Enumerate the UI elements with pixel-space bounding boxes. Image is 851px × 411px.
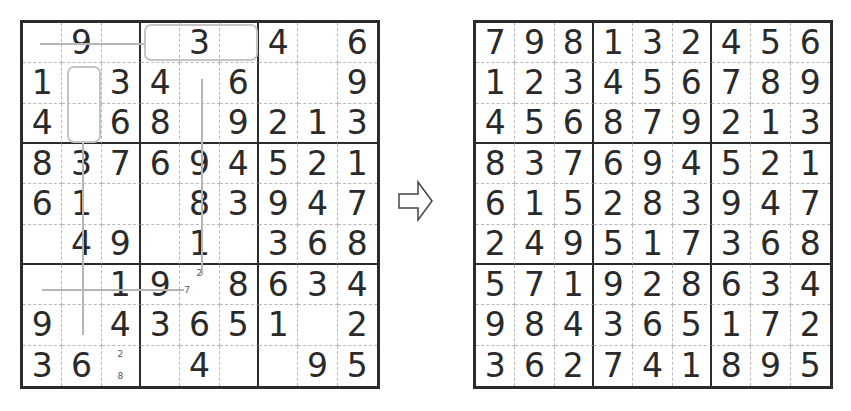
sudoku-cell[interactable]: 2 bbox=[751, 144, 790, 184]
sudoku-cell[interactable]: 9 bbox=[23, 305, 62, 345]
sudoku-cell[interactable]: 8 bbox=[791, 225, 830, 265]
sudoku-cell[interactable] bbox=[23, 265, 62, 305]
sudoku-cell[interactable] bbox=[298, 63, 337, 103]
sudoku-cell[interactable]: 1 bbox=[791, 144, 830, 184]
sudoku-cell[interactable]: 2 bbox=[673, 23, 712, 63]
sudoku-cell[interactable]: 7 bbox=[751, 305, 790, 345]
sudoku-cell[interactable]: 6 bbox=[751, 225, 790, 265]
sudoku-cell[interactable]: 8 bbox=[673, 265, 712, 305]
sudoku-cell[interactable]: 4 bbox=[180, 346, 219, 386]
sudoku-cell[interactable] bbox=[180, 63, 219, 103]
sudoku-cell[interactable]: 2 bbox=[259, 104, 298, 144]
sudoku-cell[interactable] bbox=[102, 184, 141, 224]
sudoku-cell[interactable]: 3 bbox=[712, 225, 751, 265]
sudoku-cell[interactable]: 1 bbox=[259, 305, 298, 345]
sudoku-cell[interactable]: 8 bbox=[633, 184, 672, 224]
sudoku-cell[interactable]: 4 bbox=[712, 23, 751, 63]
sudoku-cell[interactable]: 4 bbox=[338, 265, 377, 305]
sudoku-cell[interactable]: 4 bbox=[220, 144, 259, 184]
sudoku-cell[interactable] bbox=[220, 23, 259, 63]
sudoku-cell[interactable]: 7 bbox=[515, 265, 554, 305]
sudoku-cell[interactable]: 8 bbox=[555, 23, 594, 63]
sudoku-cell[interactable] bbox=[298, 305, 337, 345]
sudoku-cell[interactable]: 6 bbox=[102, 104, 141, 144]
sudoku-cell[interactable]: 5 bbox=[555, 184, 594, 224]
sudoku-cell[interactable]: 4 bbox=[298, 184, 337, 224]
sudoku-cell[interactable] bbox=[23, 225, 62, 265]
sudoku-cell[interactable] bbox=[259, 63, 298, 103]
sudoku-cell[interactable]: 1 bbox=[633, 225, 672, 265]
sudoku-cell[interactable]: 9 bbox=[338, 63, 377, 103]
sudoku-cell[interactable]: 4 bbox=[476, 104, 515, 144]
sudoku-cell[interactable]: 9 bbox=[673, 104, 712, 144]
sudoku-cell[interactable]: 6 bbox=[673, 63, 712, 103]
sudoku-cell[interactable]: 7 bbox=[102, 144, 141, 184]
sudoku-cell[interactable] bbox=[141, 184, 180, 224]
sudoku-cell[interactable]: 7 bbox=[476, 23, 515, 63]
sudoku-cell[interactable]: 5 bbox=[476, 265, 515, 305]
sudoku-cell[interactable]: 2 bbox=[515, 63, 554, 103]
sudoku-cell[interactable]: 4 bbox=[259, 23, 298, 63]
sudoku-cell[interactable]: 9 bbox=[180, 144, 219, 184]
sudoku-cell[interactable]: 3 bbox=[673, 184, 712, 224]
sudoku-cell[interactable]: 5 bbox=[633, 63, 672, 103]
sudoku-cell[interactable]: 1 bbox=[515, 184, 554, 224]
sudoku-cell[interactable]: 9 bbox=[141, 265, 180, 305]
sudoku-cell[interactable]: 9 bbox=[791, 63, 830, 103]
sudoku-cell[interactable]: 3 bbox=[180, 23, 219, 63]
sudoku-cell[interactable]: 5 bbox=[673, 305, 712, 345]
sudoku-cell[interactable]: 3 bbox=[298, 265, 337, 305]
sudoku-cell[interactable]: 6 bbox=[220, 63, 259, 103]
sudoku-cell[interactable]: 6 bbox=[791, 23, 830, 63]
sudoku-cell[interactable] bbox=[259, 346, 298, 386]
sudoku-cell[interactable]: 9 bbox=[220, 104, 259, 144]
sudoku-cell[interactable]: 4 bbox=[555, 305, 594, 345]
sudoku-cell[interactable]: 3 bbox=[594, 305, 633, 345]
sudoku-cell[interactable]: 4 bbox=[673, 144, 712, 184]
sudoku-cell[interactable] bbox=[62, 63, 101, 103]
sudoku-cell[interactable] bbox=[141, 23, 180, 63]
sudoku-cell[interactable]: 28 bbox=[102, 346, 141, 386]
sudoku-cell[interactable]: 2 bbox=[338, 305, 377, 345]
sudoku-cell[interactable]: 3 bbox=[633, 23, 672, 63]
sudoku-cell[interactable]: 9 bbox=[259, 184, 298, 224]
sudoku-cell[interactable]: 2 bbox=[298, 144, 337, 184]
sudoku-cell[interactable]: 4 bbox=[23, 104, 62, 144]
sudoku-cell[interactable]: 6 bbox=[259, 265, 298, 305]
sudoku-cell[interactable]: 4 bbox=[594, 63, 633, 103]
sudoku-cell[interactable]: 2 bbox=[594, 184, 633, 224]
sudoku-cell[interactable]: 6 bbox=[141, 144, 180, 184]
sudoku-cell[interactable]: 3 bbox=[751, 265, 790, 305]
sudoku-cell[interactable] bbox=[141, 225, 180, 265]
sudoku-cell[interactable]: 5 bbox=[338, 346, 377, 386]
sudoku-cell[interactable]: 6 bbox=[62, 346, 101, 386]
sudoku-cell[interactable]: 7 bbox=[633, 104, 672, 144]
sudoku-cell[interactable]: 3 bbox=[23, 346, 62, 386]
sudoku-cell[interactable]: 1 bbox=[338, 144, 377, 184]
sudoku-cell[interactable]: 9 bbox=[298, 346, 337, 386]
sudoku-cell[interactable]: 9 bbox=[555, 225, 594, 265]
sudoku-cell[interactable]: 6 bbox=[594, 144, 633, 184]
sudoku-cell[interactable]: 7 bbox=[555, 144, 594, 184]
sudoku-cell[interactable]: 2 bbox=[633, 265, 672, 305]
sudoku-cell[interactable]: 8 bbox=[338, 225, 377, 265]
sudoku-cell[interactable]: 1 bbox=[712, 305, 751, 345]
sudoku-cell[interactable]: 2 bbox=[555, 346, 594, 386]
sudoku-cell[interactable]: 1 bbox=[751, 104, 790, 144]
sudoku-cell[interactable]: 8 bbox=[180, 184, 219, 224]
sudoku-cell[interactable]: 6 bbox=[338, 23, 377, 63]
sudoku-cell[interactable] bbox=[62, 104, 101, 144]
sudoku-cell[interactable]: 1 bbox=[102, 265, 141, 305]
sudoku-cell[interactable]: 3 bbox=[102, 63, 141, 103]
sudoku-cell[interactable]: 8 bbox=[594, 104, 633, 144]
sudoku-cell[interactable]: 3 bbox=[141, 305, 180, 345]
sudoku-cell[interactable]: 7 bbox=[712, 63, 751, 103]
sudoku-cell[interactable]: 4 bbox=[141, 63, 180, 103]
sudoku-cell[interactable]: 1 bbox=[23, 63, 62, 103]
sudoku-cell[interactable]: 7 bbox=[594, 346, 633, 386]
sudoku-cell[interactable]: 6 bbox=[23, 184, 62, 224]
sudoku-cell[interactable]: 9 bbox=[62, 23, 101, 63]
sudoku-cell[interactable]: 3 bbox=[791, 104, 830, 144]
sudoku-cell[interactable] bbox=[141, 346, 180, 386]
sudoku-cell[interactable]: 6 bbox=[298, 225, 337, 265]
